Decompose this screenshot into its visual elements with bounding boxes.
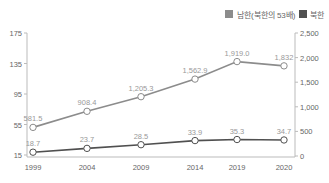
left-axis-tick: 55 — [14, 121, 22, 130]
left-axis-tick: 95 — [14, 90, 22, 99]
data-label: 18.7 — [26, 139, 41, 148]
data-label: 35.3 — [230, 127, 245, 136]
left-axis-tick: 15 — [14, 151, 22, 160]
right-axis-tick: 0 — [300, 152, 304, 161]
data-label: 908.4 — [78, 98, 97, 107]
data-point — [281, 63, 287, 69]
data-label: 1,919.0 — [224, 49, 249, 58]
data-label: 1,205.3 — [128, 84, 153, 93]
legend-swatch-north — [299, 10, 307, 18]
legend-label-south: 남한(북한의 53배) — [237, 10, 296, 20]
data-point — [30, 149, 36, 155]
right-axis: 2,5002,0001,5001,0005000 — [295, 29, 319, 161]
series-line — [33, 62, 284, 128]
left-axis: 175135955515 — [9, 29, 27, 160]
data-point — [234, 58, 240, 64]
x-axis-tick: 2009 — [133, 163, 150, 172]
data-point — [138, 93, 144, 99]
data-point — [84, 108, 90, 114]
data-label: 34.7 — [277, 127, 292, 136]
x-axis-tick: 2014 — [187, 163, 204, 172]
legend-swatch-south — [225, 10, 233, 18]
legend-label-north: 북한 — [310, 11, 325, 20]
x-axis-labels: 199920042009201420192020 — [25, 163, 293, 172]
series-line — [33, 140, 284, 153]
right-axis-tick: 1,000 — [300, 103, 319, 112]
left-axis-tick: 135 — [9, 60, 22, 69]
data-point — [30, 124, 36, 130]
series-layer: 581.5908.41,205.31,562.91,919.01,83218.7… — [24, 49, 294, 156]
x-axis-tick: 2004 — [79, 163, 96, 172]
line-chart: 남한(북한의 53배) 북한 175135955515 2,5002,0001,… — [0, 0, 329, 183]
left-axis-tick: 175 — [9, 29, 22, 38]
data-point — [138, 142, 144, 148]
right-axis-tick: 1,500 — [300, 78, 319, 87]
legend: 남한(북한의 53배) 북한 — [225, 10, 325, 20]
x-axis-tick: 1999 — [25, 163, 42, 172]
data-label: 33.9 — [188, 128, 203, 137]
data-label: 1,832 — [275, 53, 294, 62]
data-label: 23.7 — [80, 135, 95, 144]
x-axis-tick: 2020 — [276, 163, 293, 172]
right-axis-tick: 500 — [300, 127, 313, 136]
right-axis-tick: 2,000 — [300, 54, 319, 63]
data-point — [192, 137, 198, 143]
right-axis-tick: 2,500 — [300, 29, 319, 38]
data-point — [192, 76, 198, 82]
x-axis-tick: 2019 — [229, 163, 246, 172]
data-point — [234, 136, 240, 142]
data-label: 581.5 — [24, 114, 43, 123]
data-label: 28.5 — [134, 132, 149, 141]
data-point — [84, 145, 90, 151]
data-label: 1,562.9 — [182, 66, 207, 75]
data-point — [281, 137, 287, 143]
